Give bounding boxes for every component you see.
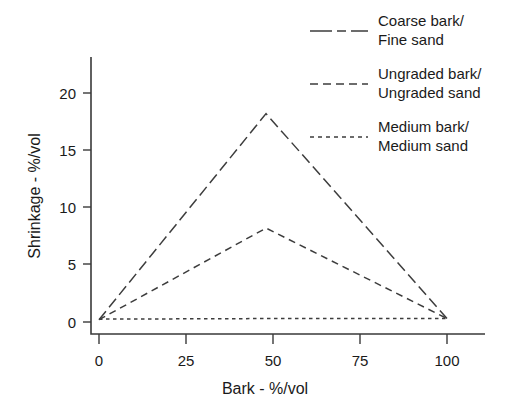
y-tick-label-0: 0	[68, 314, 76, 331]
y-tick-label-10: 10	[59, 199, 76, 216]
legend-label-ungraded-bark-ungraded-sand-line1: Ungraded bark/	[378, 65, 482, 82]
legend-label-coarse-bark-fine-sand-line2: Fine sand	[378, 31, 444, 48]
legend-label-ungraded-bark-ungraded-sand-line2: Ungraded sand	[378, 84, 481, 101]
x-tick-label-0: 0	[95, 352, 103, 369]
chart-figure: 0 5 10 15 20 0 25 50 75 100 Bark - %/vol…	[0, 0, 513, 413]
x-tick-label-25: 25	[178, 352, 195, 369]
y-axis-title: Shrinkage - %/vol	[26, 133, 43, 258]
y-tick-label-15: 15	[59, 142, 76, 159]
line-chart: 0 5 10 15 20 0 25 50 75 100 Bark - %/vol…	[0, 0, 513, 413]
legend-label-medium-bark-medium-sand-line1: Medium bark/	[378, 118, 470, 135]
x-tick-label-75: 75	[352, 352, 369, 369]
legend-entry-coarse-bark-fine-sand: Coarse bark/ Fine sand	[310, 12, 465, 48]
y-tick-labels: 0 5 10 15 20	[59, 85, 76, 331]
legend-label-medium-bark-medium-sand-line2: Medium sand	[378, 137, 468, 154]
series-line-ungraded-bark-ungraded-sand	[99, 228, 447, 320]
y-tick-label-20: 20	[59, 85, 76, 102]
x-axis-title: Bark - %/vol	[222, 380, 308, 397]
x-tick-label-50: 50	[265, 352, 282, 369]
y-tick-label-5: 5	[68, 256, 76, 273]
x-tick-label-100: 100	[434, 352, 459, 369]
x-tick-marks	[99, 334, 447, 344]
legend-label-coarse-bark-fine-sand-line1: Coarse bark/	[378, 12, 465, 29]
legend-entry-medium-bark-medium-sand: Medium bark/ Medium sand	[310, 118, 470, 154]
legend-entry-ungraded-bark-ungraded-sand: Ungraded bark/ Ungraded sand	[310, 65, 482, 101]
legend: Coarse bark/ Fine sand Ungraded bark/ Un…	[310, 12, 482, 154]
x-tick-labels: 0 25 50 75 100	[95, 352, 460, 369]
y-tick-marks	[83, 93, 91, 322]
series-line-medium-bark-medium-sand	[99, 319, 447, 320]
